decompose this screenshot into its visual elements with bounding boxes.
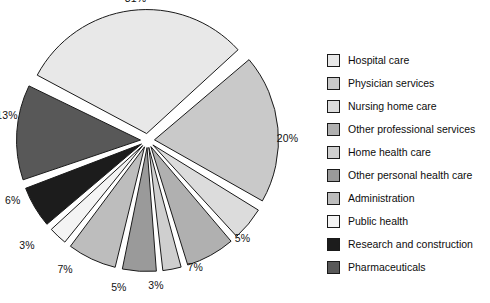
pie-slice-value-label: 13% [0,109,18,121]
legend-item-label: Physician services [348,78,434,89]
legend-color-swatch [327,123,340,136]
legend-item[interactable]: Administration [327,187,490,210]
pie-slice-value-label: 5% [235,232,250,244]
pie-slice-value-label: 7% [188,261,203,273]
legend-item[interactable]: Research and construction [327,233,490,256]
legend-color-swatch [327,77,340,90]
pie-slice-value-label: 5% [111,281,126,293]
pie-slice-value-label: 3% [148,279,163,291]
legend-item-label: Other personal health care [348,170,472,181]
legend-item-label: Administration [348,193,415,204]
pie-slice-value-label: 7% [57,263,72,275]
legend-item-label: Nursing home care [348,101,437,112]
pie-slice-value-label: 31% [125,0,146,4]
legend-color-swatch [327,54,340,67]
pie-chart-plot-area: 31%20%5%7%3%5%7%3%6%13% [0,0,320,303]
pie-chart-svg [0,0,320,303]
legend-item-label: Other professional services [348,124,475,135]
legend-item-label: Hospital care [348,55,409,66]
pie-slice-value-label: 3% [19,239,34,251]
legend-item[interactable]: Home health care [327,141,490,164]
legend-item-label: Pharmaceuticals [348,262,426,273]
pie-slice-value-label: 20% [277,132,298,144]
legend-color-swatch [327,238,340,251]
legend-color-swatch [327,215,340,228]
legend-color-swatch [327,192,340,205]
legend-color-swatch [327,261,340,274]
legend-color-swatch [327,169,340,182]
legend-item-label: Research and construction [348,239,473,250]
chart-legend: Hospital carePhysician servicesNursing h… [327,49,490,279]
legend-item[interactable]: Public health [327,210,490,233]
legend-item[interactable]: Other personal health care [327,164,490,187]
legend-item[interactable]: Physician services [327,72,490,95]
legend-item-label: Home health care [348,147,431,158]
legend-item[interactable]: Other professional services [327,118,490,141]
legend-item[interactable]: Pharmaceuticals [327,256,490,279]
legend-item-label: Public health [348,216,408,227]
pie-slice-value-label: 6% [5,194,20,206]
legend-item[interactable]: Nursing home care [327,95,490,118]
pie-chart-figure: 31%20%5%7%3%5%7%3%6%13% Hospital carePhy… [0,0,490,303]
legend-color-swatch [327,100,340,113]
legend-color-swatch [327,146,340,159]
legend-item[interactable]: Hospital care [327,49,490,72]
